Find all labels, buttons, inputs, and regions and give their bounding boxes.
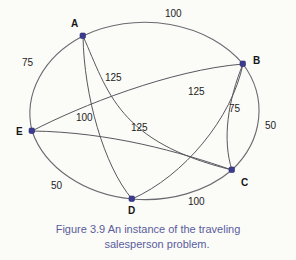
edge-e-c: [32, 131, 232, 170]
figure-caption: Figure 3.9 An instance of the traveling …: [0, 222, 296, 252]
caption-line-2: salesperson problem.: [0, 237, 296, 252]
rim-arc-d-e: [32, 131, 132, 199]
node-dot-a[interactable]: [80, 33, 86, 39]
rim-arc-b-c: [232, 64, 259, 170]
node-label-a: A: [71, 19, 78, 29]
rim-arc-c-d: [132, 170, 232, 200]
edge-weight-b-c: 75: [229, 104, 240, 114]
figure-container: A B C D E 100 75 125 125 75 50 100 125 5…: [0, 0, 296, 260]
edge-weight-a-b: 100: [165, 9, 182, 19]
caption-line-1: Figure 3.9 An instance of the traveling: [0, 222, 296, 237]
edge-weight-d-c: 100: [188, 197, 205, 207]
node-label-e: E: [16, 127, 23, 137]
edge-weight-a-e: 75: [22, 58, 33, 68]
node-dot-e[interactable]: [29, 128, 35, 134]
edge-weight-e-c: 125: [131, 123, 148, 133]
node-dot-c[interactable]: [229, 167, 235, 173]
edge-weight-b-e: 125: [188, 87, 205, 97]
edge-weight-a-d: 100: [76, 113, 93, 123]
graph-canvas: [0, 0, 296, 260]
edge-weight-e-d: 50: [51, 181, 62, 191]
node-label-b: B: [253, 56, 260, 66]
edge-b-c: [227, 64, 243, 170]
edge-weight-a-c: 125: [105, 73, 122, 83]
graph-edges: [32, 36, 243, 199]
node-dot-d[interactable]: [129, 196, 135, 202]
graph-nodes: [29, 33, 246, 202]
node-label-c: C: [241, 178, 248, 188]
edge-weight-b-d: 50: [265, 121, 276, 131]
node-dot-b[interactable]: [240, 61, 246, 67]
edge-b-e: [32, 64, 243, 131]
edge-b-d: [132, 64, 243, 199]
node-label-d: D: [128, 206, 135, 216]
rim-arc-a-b: [83, 22, 243, 64]
